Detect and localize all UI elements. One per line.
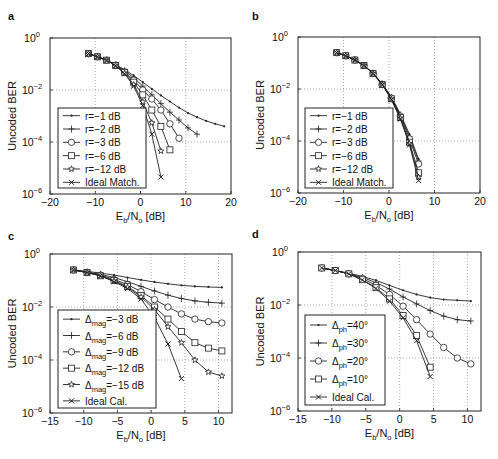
dot-marker bbox=[70, 318, 72, 320]
circle-marker bbox=[441, 344, 447, 350]
square-marker bbox=[192, 340, 198, 346]
x-tick-label: 5 bbox=[182, 415, 188, 427]
square-marker bbox=[219, 348, 225, 354]
star-marker bbox=[158, 148, 164, 154]
circle-marker bbox=[165, 304, 171, 310]
legend-label: r=−12 dB bbox=[332, 164, 373, 175]
dot-marker bbox=[178, 107, 180, 109]
y-tick-label: 100 bbox=[272, 244, 288, 258]
plus-marker bbox=[178, 295, 184, 302]
x-tick-label: 0 bbox=[138, 196, 144, 208]
dot-marker bbox=[221, 286, 223, 288]
legend-label: r=−6 dB bbox=[332, 151, 368, 162]
dot-marker bbox=[207, 286, 209, 288]
x-tick-label: −20 bbox=[41, 196, 59, 208]
plus-marker bbox=[454, 316, 460, 323]
legend-label: r=−1 dB bbox=[85, 111, 121, 122]
legend-label: r=−2 dB bbox=[85, 124, 121, 135]
plus-marker bbox=[165, 292, 171, 299]
square-marker bbox=[149, 107, 155, 113]
dot-marker bbox=[214, 123, 216, 125]
dot-marker bbox=[140, 279, 142, 281]
y-tick-label: 10−4 bbox=[22, 134, 42, 148]
dot-marker bbox=[317, 324, 319, 326]
y-tick-label: 10−2 bbox=[22, 299, 42, 313]
circle-marker bbox=[167, 121, 173, 127]
y-tick-label: 100 bbox=[272, 29, 288, 43]
dot-marker bbox=[429, 297, 431, 299]
x-tick-label: −5 bbox=[360, 413, 372, 425]
plus-marker bbox=[192, 297, 198, 304]
legend-label: Ideal Cal. bbox=[85, 396, 127, 407]
y-tick-label: 10−6 bbox=[22, 405, 42, 419]
dot-marker bbox=[205, 120, 207, 122]
series bbox=[72, 269, 222, 289]
y-tick-label: 10−6 bbox=[22, 186, 42, 200]
panel-a: a−20−100102010010−210−410−6Uncoded BEREb… bbox=[6, 10, 237, 225]
y-tick-label: 10−4 bbox=[270, 350, 290, 364]
panel-label: b bbox=[252, 10, 259, 22]
circle-marker bbox=[315, 358, 321, 364]
circle-marker bbox=[427, 331, 433, 337]
circle-marker bbox=[151, 296, 157, 302]
x-tick-label: 0 bbox=[148, 415, 154, 427]
x-tick-label: 20 bbox=[225, 196, 237, 208]
legend-label: r=−3 dB bbox=[85, 137, 121, 148]
dot-marker bbox=[169, 100, 171, 102]
y-tick-label: 10−4 bbox=[22, 352, 42, 366]
circle-marker bbox=[454, 355, 460, 361]
legend-label: Ideal Cal. bbox=[332, 392, 374, 403]
dot-marker bbox=[70, 115, 72, 117]
dot-marker bbox=[167, 283, 169, 285]
x-tick-label: −15 bbox=[289, 413, 307, 425]
square-marker bbox=[427, 364, 433, 370]
legend-label: r=−6 dB bbox=[85, 151, 121, 162]
circle-marker bbox=[68, 139, 74, 145]
circle-marker bbox=[205, 318, 211, 324]
x-tick-label: 10 bbox=[462, 413, 474, 425]
dot-marker bbox=[443, 298, 445, 300]
circle-marker bbox=[68, 349, 74, 355]
circle-marker bbox=[158, 107, 164, 113]
x-tick-label: 20 bbox=[474, 195, 486, 207]
dot-marker bbox=[470, 300, 472, 302]
star-marker bbox=[149, 120, 155, 126]
y-axis-label: Uncoded BER bbox=[6, 81, 18, 151]
dot-marker bbox=[456, 299, 458, 301]
panel-c: c−15−10−5051010010−210−410−6Uncoded BERE… bbox=[6, 230, 232, 444]
x-axis-label: Eb/No [dB] bbox=[365, 427, 414, 442]
panel-label: a bbox=[8, 10, 15, 22]
dot-marker bbox=[317, 115, 319, 117]
square-marker bbox=[165, 316, 171, 322]
legend: Δmag=−3 dBΔmag=−6 dBΔmag=−9 dBΔmag=−12 d… bbox=[58, 310, 156, 408]
x-tick-label: 0 bbox=[397, 413, 403, 425]
circle-marker bbox=[468, 361, 474, 367]
dot-marker bbox=[196, 116, 198, 118]
plus-marker bbox=[468, 317, 474, 324]
x-tick-label: −10 bbox=[323, 413, 341, 425]
legend-label: r=−3 dB bbox=[332, 137, 368, 148]
dot-marker bbox=[187, 112, 189, 114]
square-marker bbox=[205, 345, 211, 351]
plus-marker bbox=[151, 288, 157, 295]
panel-label: d bbox=[252, 228, 259, 240]
y-tick-label: 100 bbox=[24, 246, 40, 260]
legend-label: r=−1 dB bbox=[332, 111, 368, 122]
x-axis-label: Eb/No [dB] bbox=[116, 429, 165, 444]
legend-label: r=−2 dB bbox=[332, 124, 368, 135]
panel-b: b−20−100102010010−210−410−6Uncoded BEREb… bbox=[252, 10, 486, 224]
circle-marker bbox=[176, 135, 182, 141]
dot-marker bbox=[151, 88, 153, 90]
circle-marker bbox=[149, 96, 155, 102]
panel-label: c bbox=[8, 230, 14, 242]
plus-marker bbox=[205, 299, 211, 306]
plus-marker bbox=[427, 307, 433, 314]
circle-marker bbox=[400, 303, 406, 309]
square-marker bbox=[158, 123, 164, 129]
square-marker bbox=[167, 147, 173, 153]
circle-marker bbox=[413, 316, 419, 322]
square-marker bbox=[69, 153, 75, 159]
x-axis-label: Eb/No [dB] bbox=[116, 210, 165, 225]
legend: r=−1 dBr=−2 dBr=−3 dBr=−6 dBr=−12 dBIdea… bbox=[58, 108, 146, 188]
x-tick-label: 10 bbox=[180, 196, 192, 208]
